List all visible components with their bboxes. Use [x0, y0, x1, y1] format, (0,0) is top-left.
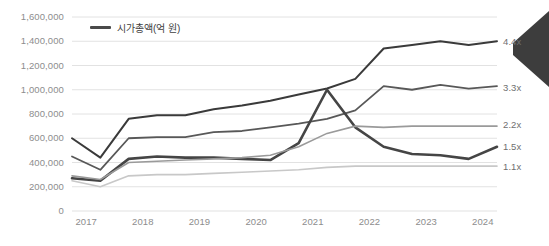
x-axis-tick-label: 2020 [228, 216, 284, 227]
y-axis-tick-label: 1,200,000 [2, 60, 64, 71]
x-axis-tick-label: 2018 [115, 216, 171, 227]
y-axis-tick-label: 400,000 [2, 157, 64, 168]
series-line-1-1x [72, 166, 497, 187]
x-axis-tick-label: 2019 [172, 216, 228, 227]
right-arrow-callout-icon [507, 11, 549, 87]
plot-area [0, 0, 549, 246]
x-axis-tick-label: 2023 [398, 216, 454, 227]
y-axis-tick-label: 1,400,000 [2, 35, 64, 46]
series-multiplier-label: 3.3x [503, 82, 521, 93]
y-axis-tick-label: 1,600,000 [2, 11, 64, 22]
x-axis-tick-label: 2021 [285, 216, 341, 227]
x-axis-tick-label: 2017 [58, 216, 114, 227]
x-axis-tick-label: 2022 [342, 216, 398, 227]
series-multiplier-label: 1.1x [503, 161, 521, 172]
y-axis-tick-label: 800,000 [2, 108, 64, 119]
series-multiplier-label: 1.5x [503, 141, 521, 152]
y-axis-tick-label: 1,000,000 [2, 84, 64, 95]
y-axis-tick-label: 600,000 [2, 132, 64, 143]
series-multiplier-label: 2.2x [503, 119, 521, 130]
series-multiplier-label: 4.4x [503, 36, 521, 47]
chart-container: 시가총액(억 원) 1,600,0001,400,0001,200,0001,0… [0, 0, 549, 246]
x-axis-tick-label: 2024 [455, 216, 511, 227]
y-axis-tick-label: 0 [2, 205, 64, 216]
series-line-1-5x [72, 90, 497, 181]
series-line-4-4x [72, 41, 497, 157]
y-axis-tick-label: 200,000 [2, 181, 64, 192]
